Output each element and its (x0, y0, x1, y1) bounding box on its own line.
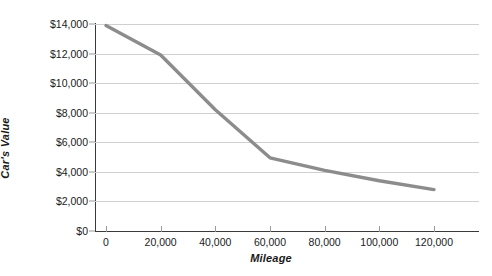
y-axis-tick-label: $12,000 (2, 48, 88, 60)
y-axis-tick-mark (89, 201, 95, 202)
x-axis-title: Mileage (106, 252, 436, 264)
y-axis-tick-label: $6,000 (2, 136, 88, 148)
y-axis-tick-label: $10,000 (2, 77, 88, 89)
x-axis-tick-label: 60,000 (254, 236, 286, 248)
y-axis-tick-mark (89, 142, 95, 143)
x-axis-tick-mark (270, 226, 271, 232)
chart-container: Car's Value $0$2,000$4,000$6,000$8,000$1… (0, 0, 492, 276)
x-axis-tick-label: 100,000 (360, 236, 398, 248)
x-axis-tick-label: 0 (103, 236, 109, 248)
series-polyline (106, 25, 434, 189)
x-axis-tick-mark (434, 226, 435, 232)
y-axis-tick-mark (89, 231, 95, 232)
y-axis-tick-label: $0 (2, 225, 88, 237)
y-axis-tick-label: $14,000 (2, 18, 88, 30)
x-axis-tick-mark (161, 226, 162, 232)
x-axis-tick-label: 80,000 (309, 236, 341, 248)
y-axis-tick-mark (89, 24, 95, 25)
x-axis-tick-mark (106, 226, 107, 232)
x-axis-tick-label: 40,000 (199, 236, 231, 248)
x-axis-tick-label: 120,000 (415, 236, 453, 248)
y-axis-tick-label: $4,000 (2, 166, 88, 178)
x-axis-tick-label: 20,000 (145, 236, 177, 248)
x-axis-tick-mark (325, 226, 326, 232)
y-axis-tick-labels: $0$2,000$4,000$6,000$8,000$10,000$12,000… (0, 0, 88, 276)
plot-area (95, 24, 479, 231)
series-line-cars-value (95, 24, 479, 231)
y-axis-tick-mark (89, 53, 95, 54)
y-axis-tick-label: $8,000 (2, 107, 88, 119)
x-axis-tick-mark (215, 226, 216, 232)
y-axis-tick-mark (89, 83, 95, 84)
y-axis-tick-mark (89, 112, 95, 113)
gridline (95, 231, 479, 232)
y-axis-tick-label: $2,000 (2, 195, 88, 207)
x-axis-tick-mark (379, 226, 380, 232)
y-axis-tick-mark (89, 171, 95, 172)
